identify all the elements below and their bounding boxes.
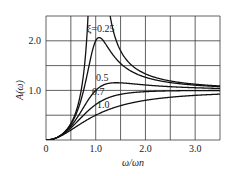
x-tick-label: 0 [44, 143, 49, 154]
y-tick-label: 1.0 [29, 85, 42, 96]
curve-xi-0 [46, 0, 220, 140]
x-tick-label: 2.0 [139, 143, 152, 154]
curves [46, 0, 220, 140]
curve-label: 1.0 [97, 99, 110, 110]
tick-labels: 01.02.03.01.02.0 [29, 35, 202, 154]
curve-label: ξ=0.25 [87, 23, 115, 35]
curve-label: 0.5 [96, 72, 109, 83]
x-tick-label: 1.0 [89, 143, 102, 154]
curve-1-0 [46, 94, 220, 140]
amplitude-frequency-chart: 01.02.03.01.02.0 ξ=0.250.50.71.0 ω/ωn A(… [0, 0, 235, 176]
y-tick-label: 2.0 [29, 35, 42, 46]
y-axis-label: A(ω) [14, 79, 26, 100]
curve-label: 0.7 [92, 86, 105, 97]
curve-0-5 [46, 83, 220, 140]
x-tick-label: 3.0 [189, 143, 202, 154]
x-axis-label: ω/ωn [122, 157, 144, 168]
